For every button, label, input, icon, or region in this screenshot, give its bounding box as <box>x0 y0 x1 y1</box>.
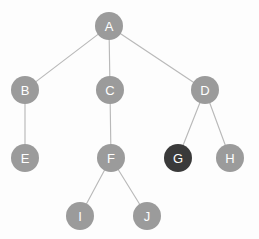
node-label-a: A <box>105 19 114 34</box>
node-layer: ABCDEFGHIJ <box>11 12 244 230</box>
tree-node-d[interactable]: D <box>191 76 219 104</box>
tree-graph-canvas: ABCDEFGHIJ <box>0 0 259 239</box>
node-label-b: B <box>21 83 30 98</box>
node-label-c: C <box>105 83 114 98</box>
tree-node-e[interactable]: E <box>11 144 39 172</box>
node-label-i: I <box>78 209 82 224</box>
tree-edge-c-f <box>110 103 111 145</box>
tree-edge-a-d <box>120 33 194 83</box>
tree-node-g[interactable]: G <box>164 144 192 172</box>
tree-node-f[interactable]: F <box>97 144 125 172</box>
tree-node-a[interactable]: A <box>95 12 123 40</box>
tree-edge-a-c <box>109 39 110 77</box>
tree-node-i[interactable]: I <box>66 202 94 230</box>
node-label-e: E <box>21 151 30 166</box>
node-label-g: G <box>173 151 183 166</box>
tree-edge-a-b <box>35 34 98 82</box>
tree-edge-f-j <box>118 169 140 205</box>
tree-node-h[interactable]: H <box>216 144 244 172</box>
edge-layer <box>25 33 226 205</box>
tree-node-j[interactable]: J <box>133 202 161 230</box>
node-label-f: F <box>107 151 115 166</box>
tree-edge-d-g <box>183 102 200 146</box>
tree-node-b[interactable]: B <box>11 76 39 104</box>
tree-node-c[interactable]: C <box>96 76 124 104</box>
node-label-h: H <box>225 151 234 166</box>
node-label-j: J <box>144 209 151 224</box>
tree-diagram: ABCDEFGHIJ <box>0 0 259 239</box>
tree-edge-d-h <box>209 102 225 146</box>
tree-edge-f-i <box>86 169 105 204</box>
node-label-d: D <box>200 83 209 98</box>
